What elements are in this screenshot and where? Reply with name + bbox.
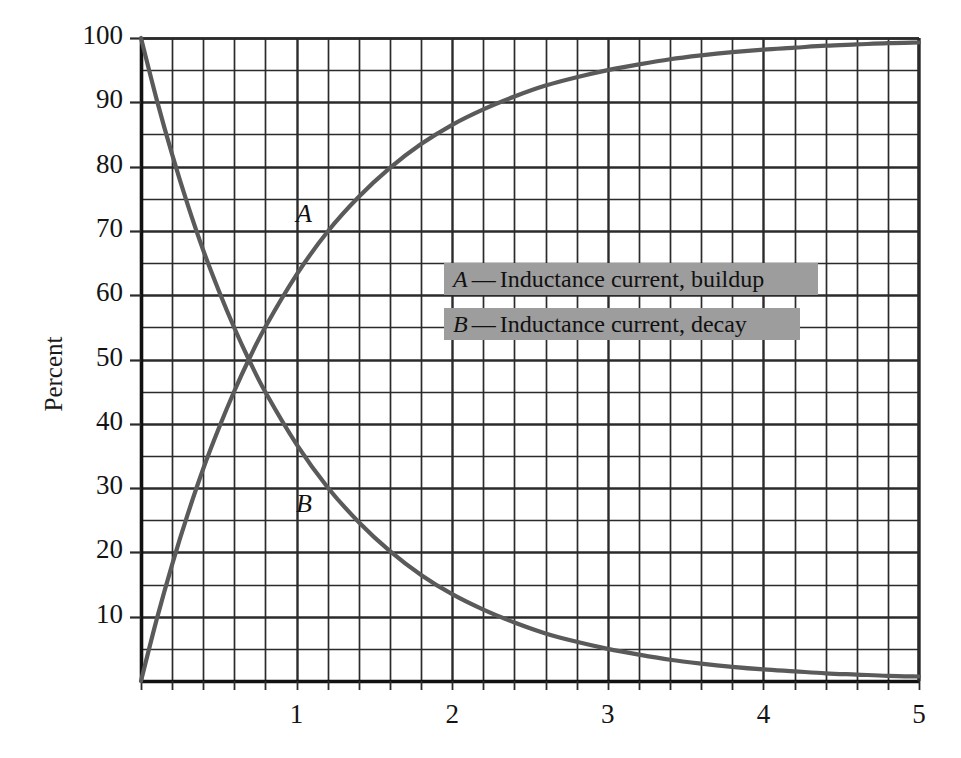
legend-label-b: Inductance current, decay xyxy=(500,311,747,338)
legend-key-b: B xyxy=(453,311,468,338)
legend-dash-a: — xyxy=(472,266,496,293)
legend-dash-b: — xyxy=(472,311,496,338)
curve-label-b: B xyxy=(296,489,312,519)
plot-area xyxy=(0,0,961,758)
legend-label-a: Inductance current, buildup xyxy=(500,266,765,293)
legend-entry-b: B — Inductance current, decay xyxy=(444,308,800,340)
curve-label-a: A xyxy=(296,199,312,229)
chart-figure: Percent 102030405060708090100 12345 A B … xyxy=(0,0,961,758)
legend-key-a: A xyxy=(453,266,468,293)
legend-entry-a: A — Inductance current, buildup xyxy=(444,263,818,295)
